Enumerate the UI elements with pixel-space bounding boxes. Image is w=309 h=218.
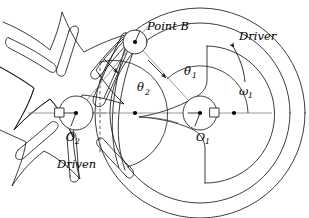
omega1-label: ω 1 bbox=[239, 84, 253, 100]
svg-text:θ: θ bbox=[137, 80, 144, 94]
driven-slot-lower-left bbox=[16, 122, 58, 160]
pivot-o1 bbox=[183, 96, 219, 130]
svg-text:1: 1 bbox=[192, 71, 197, 80]
point-b-pin bbox=[123, 30, 147, 54]
pivot-o2 bbox=[55, 96, 93, 130]
o2-keyway-fill bbox=[55, 108, 64, 117]
point-b-label: Point B bbox=[146, 19, 189, 33]
omega1-rotation-arrow bbox=[234, 48, 245, 82]
svg-text:O: O bbox=[196, 131, 205, 144]
svg-text:1: 1 bbox=[248, 91, 253, 100]
svg-text:1: 1 bbox=[205, 137, 210, 146]
o1-center-dot bbox=[198, 111, 202, 115]
diagram-canvas: Point B Driver Driven O 1 O 2 θ 1 θ 2 ω … bbox=[0, 0, 309, 218]
o2-label: O 2 bbox=[66, 131, 80, 146]
o1-label: O 1 bbox=[196, 131, 210, 146]
geneva-mechanism-figure: Point B Driver Driven O 1 O 2 θ 1 θ 2 ω … bbox=[0, 0, 309, 218]
svg-text:2: 2 bbox=[74, 137, 80, 146]
centerline-dot-mid bbox=[133, 111, 137, 115]
point-b-center-dot bbox=[133, 40, 137, 44]
svg-text:O: O bbox=[66, 131, 75, 144]
theta2-label: θ 2 bbox=[137, 80, 150, 97]
o1-keyway-fill bbox=[210, 108, 219, 117]
omega1-arc-arrow bbox=[234, 48, 245, 82]
centerline-dot-right bbox=[232, 111, 236, 115]
svg-text:θ: θ bbox=[184, 64, 191, 78]
svg-text:2: 2 bbox=[144, 88, 150, 97]
driver-label: Driver bbox=[238, 29, 278, 43]
o2-center-dot bbox=[74, 111, 78, 115]
driven-label: Driven bbox=[56, 157, 96, 171]
